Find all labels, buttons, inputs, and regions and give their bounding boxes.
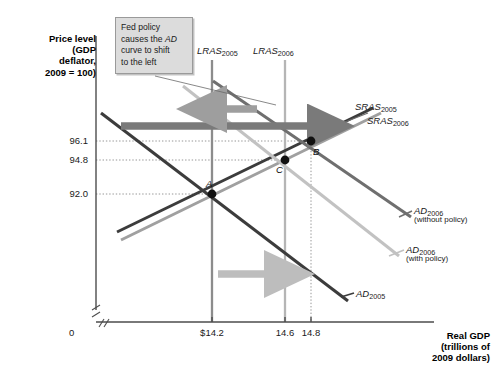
y-axis-title-line-4: 2009 = 100)	[8, 67, 96, 78]
x-axis-title-line-3: 2009 dollars)	[398, 352, 490, 363]
x-tick-label-14-8: 14.8	[288, 327, 334, 338]
callout-line-1: Fed policy	[121, 22, 187, 34]
point-label-b: B	[313, 146, 319, 157]
callout-line-2: causes the AD	[121, 34, 187, 46]
y-tick-label-96-1: 96.1	[48, 135, 88, 146]
curve-label-lras-2005-name: LRAS	[197, 45, 222, 56]
equilibrium-point-b	[307, 137, 316, 146]
curve-label-lras-2005-sub: 2005	[222, 49, 238, 58]
curve-label-lras-2005: LRAS2005	[197, 45, 238, 56]
callout-line-4: to the left	[121, 57, 187, 69]
callout-line-2-italic: AD	[165, 34, 177, 44]
callout-line-2-text: causes the	[121, 34, 165, 44]
leader-line-ad-2005	[341, 293, 354, 297]
curve-label-lras-2006-name: LRAS	[253, 45, 278, 56]
curve-label-sras-2006-sub: 2006	[393, 119, 409, 128]
axis-break-marks	[92, 305, 109, 327]
curve-label-ad-2006-without-policy: AD2006 (without policy)	[414, 205, 467, 225]
curve-label-ad-2005: AD2005	[356, 288, 385, 299]
x-axis-title-line-2: (trillions of	[398, 341, 490, 352]
curve-label-sras-2005: SRAS2005	[355, 101, 397, 112]
callout-box: Fed policy causes the AD curve to shift …	[115, 17, 193, 74]
origin-label: 0	[69, 327, 74, 338]
callout-line-3: curve to shift	[121, 45, 187, 57]
y-axis-title: Price level (GDP deflator, 2009 = 100)	[8, 33, 96, 78]
y-tick-label-92-0: 92.0	[48, 188, 88, 199]
curve-label-sras-2006: SRAS2006	[367, 115, 409, 126]
point-label-c: C	[276, 164, 283, 175]
curve-label-sras-2006-name: SRAS	[367, 115, 393, 126]
curve-label-lras-2006-sub: 2006	[278, 49, 294, 58]
curve-label-ad-2005-sub: 2005	[369, 292, 385, 301]
y-axis-title-line-3: deflator,	[8, 55, 96, 66]
callout-leader-line	[155, 76, 276, 105]
y-axis-title-line-2: (GDP	[8, 44, 96, 55]
curve-label-ad-2006-with-policy: AD2006 (with policy)	[406, 244, 448, 264]
point-label-a: A	[206, 178, 212, 189]
y-tick-label-94-8: 94.8	[48, 154, 88, 165]
curve-label-ad-2006-with-name: AD	[406, 244, 419, 255]
economics-diagram-figure: Price level (GDP deflator, 2009 = 100) R…	[0, 0, 496, 372]
curve-label-ad-2006-without-sub: 2006	[427, 209, 443, 218]
axis-lines	[96, 36, 434, 322]
curve-label-ad-2006-without-name: AD	[414, 205, 427, 216]
equilibrium-point-a	[208, 190, 217, 199]
curve-label-ad-2006-with-sub: 2006	[419, 248, 435, 257]
curve-label-lras-2006: LRAS2006	[253, 45, 294, 56]
curve-label-sras-2005-name: SRAS	[355, 101, 381, 112]
x-axis-title: Real GDP (trillions of 2009 dollars)	[398, 330, 490, 364]
x-axis-ticks	[212, 317, 311, 322]
curve-sras-2006	[121, 113, 381, 240]
x-axis-title-line-1: Real GDP	[398, 330, 490, 341]
curve-label-ad-2005-name: AD	[356, 288, 369, 299]
x-tick-label-14-2: $14.2	[187, 327, 237, 338]
y-axis-title-line-1: Price level	[8, 33, 96, 44]
curve-label-sras-2005-sub: 2005	[381, 105, 397, 114]
